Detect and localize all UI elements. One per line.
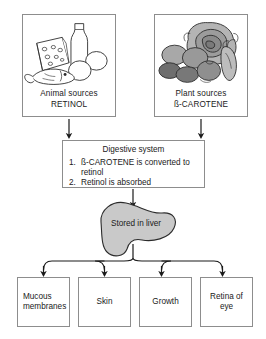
outcome-box-skin: Skin xyxy=(78,277,131,327)
outcome-label-retina: Retina of eye xyxy=(201,292,252,312)
outcome-label-growth: Growth xyxy=(140,297,191,307)
animal-sources-box: Animal sources RETINOL xyxy=(22,14,116,117)
digestive-step: 2. Retinol is absorbed xyxy=(69,178,198,188)
digestive-system-box: Digestive system 1. ß-CAROTENE is conver… xyxy=(62,140,205,188)
plant-sources-caption-line1: Plant sources xyxy=(155,89,247,99)
animal-foods-illustration xyxy=(23,19,115,87)
digestive-step-text: Retinol is absorbed xyxy=(81,178,151,187)
branch-growth xyxy=(162,261,172,270)
digestive-step: 1. ß-CAROTENE is converted to retinol xyxy=(69,158,198,177)
plant-sources-box: Plant sources ß-CAROTENE xyxy=(154,14,248,117)
digestive-step-number: 2. xyxy=(69,178,76,188)
plant-sources-caption-line2: ß-CAROTENE xyxy=(155,100,247,110)
animal-sources-caption-line1: Animal sources xyxy=(23,89,115,99)
distribution-bus xyxy=(44,258,223,270)
animal-sources-caption-line2: RETINOL xyxy=(23,100,115,110)
animal-sources-caption: Animal sources RETINOL xyxy=(23,89,115,110)
outcome-label-mucous: Mucous membranes xyxy=(18,292,69,312)
digestive-step-number: 1. xyxy=(69,158,76,168)
outcome-box-mucous: Mucous membranes xyxy=(17,277,70,327)
digestive-step-text: ß-CAROTENE is converted to retinol xyxy=(81,158,190,177)
branch-skin xyxy=(95,261,105,270)
plant-sources-caption: Plant sources ß-CAROTENE xyxy=(155,89,247,110)
fish xyxy=(33,69,75,84)
liver-blob xyxy=(101,202,175,255)
outcome-label-skin: Skin xyxy=(79,297,130,307)
digestive-system-title: Digestive system xyxy=(69,145,198,155)
outcome-box-retina: Retina of eye xyxy=(200,277,253,327)
liver-storage-label: Stored in liver xyxy=(96,219,176,229)
beetroot xyxy=(176,67,199,83)
digestive-steps-list: 1. ß-CAROTENE is converted to retinol 2.… xyxy=(69,158,198,188)
plant-foods-illustration xyxy=(155,19,247,87)
outcome-box-growth: Growth xyxy=(139,277,192,327)
